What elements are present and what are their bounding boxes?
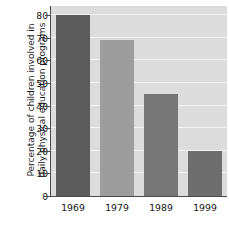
bar-chart-figure: Percentage of children involved in daily… <box>0 0 229 229</box>
x-axis-tick-labels: 1969197919891999 <box>51 200 227 220</box>
x-axis-tick-label: 1999 <box>193 202 217 213</box>
y-axis-tick-mark <box>45 83 50 84</box>
y-axis-tick-mark <box>45 196 50 197</box>
x-axis-tick-label: 1989 <box>149 202 173 213</box>
y-axis-tick-mark <box>45 38 50 39</box>
plot-area <box>51 6 227 196</box>
x-axis-tick-label: 1979 <box>105 202 129 213</box>
y-axis-tick-mark <box>45 151 50 152</box>
y-axis-tick-mark <box>45 173 50 174</box>
y-axis-tick-mark <box>45 15 50 16</box>
bar <box>144 94 178 196</box>
bar <box>56 15 90 196</box>
y-axis-title: Percentage of children involved in daily… <box>0 0 30 200</box>
bar <box>188 151 222 196</box>
y-axis-tick-labels: 01020304050607080 <box>28 0 48 229</box>
bar <box>100 40 134 196</box>
y-axis-tick-mark <box>45 60 50 61</box>
y-axis-tick-mark <box>45 128 50 129</box>
x-axis-tick-label: 1969 <box>61 202 85 213</box>
y-axis-tick-mark <box>45 106 50 107</box>
x-axis-line <box>44 196 227 197</box>
